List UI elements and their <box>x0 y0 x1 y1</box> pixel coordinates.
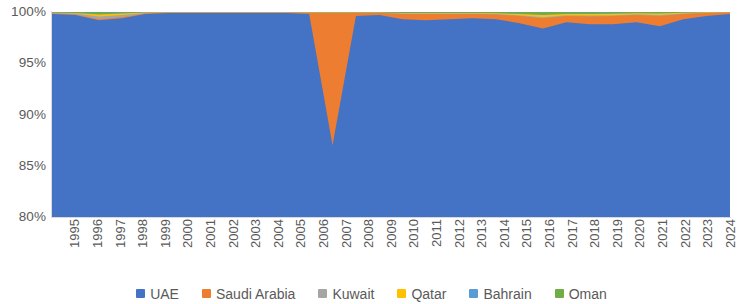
legend-item-kuwait[interactable]: Kuwait <box>318 287 374 301</box>
x-axis-tick-label: 1996 <box>91 219 104 248</box>
x-axis-tick-label: 2010 <box>407 219 420 248</box>
x-axis-tick-label: 2003 <box>249 219 262 248</box>
x-axis-tick-label: 2001 <box>204 219 217 248</box>
legend-swatch-icon <box>555 289 564 298</box>
plot-area <box>52 12 730 217</box>
x-axis-tick-label: 2013 <box>475 219 488 248</box>
y-axis-tick-label: 90% <box>19 108 46 122</box>
x-axis-tick-label: 2021 <box>656 219 669 248</box>
legend-item-uae[interactable]: UAE <box>136 287 179 301</box>
x-axis-tick-label: 2008 <box>362 219 375 248</box>
y-axis-tick-label: 100% <box>11 5 46 19</box>
x-axis-line <box>51 217 731 218</box>
x-axis-tick-label: 2022 <box>679 219 692 248</box>
y-axis-tick-label: 80% <box>19 210 46 224</box>
legend-item-label: Bahrain <box>483 287 531 301</box>
x-axis-tick-label: 2016 <box>543 219 556 248</box>
x-axis-tick-label: 1999 <box>159 219 172 248</box>
legend-swatch-icon <box>318 289 327 298</box>
x-axis-tick-label: 2004 <box>272 219 285 248</box>
legend-swatch-icon <box>136 289 145 298</box>
x-axis-tick-label: 1995 <box>68 219 81 248</box>
legend-item-label: UAE <box>150 287 179 301</box>
x-axis-tick-label: 2006 <box>317 219 330 248</box>
x-axis-tick-label: 2019 <box>611 219 624 248</box>
legend-item-qatar[interactable]: Qatar <box>397 287 446 301</box>
legend-item-saudi-arabia[interactable]: Saudi Arabia <box>202 287 295 301</box>
x-axis-tick-label: 2005 <box>294 219 307 248</box>
x-axis-tick-label: 2014 <box>498 219 511 248</box>
y-axis-tick-label: 85% <box>19 159 46 173</box>
legend-item-label: Saudi Arabia <box>216 287 295 301</box>
stacked-area-chart: 100%95%90%85%80% 19951996199719981999200… <box>0 0 743 304</box>
legend-item-label: Kuwait <box>332 287 374 301</box>
legend-item-label: Oman <box>569 287 607 301</box>
legend-swatch-icon <box>202 289 211 298</box>
legend-swatch-icon <box>397 289 406 298</box>
x-axis-tick-label: 2015 <box>520 219 533 248</box>
x-axis-tick-label: 2017 <box>566 219 579 248</box>
x-axis-tick-label: 2018 <box>588 219 601 248</box>
x-axis-tick-label: 2023 <box>701 219 714 248</box>
x-axis-tick-label: 2024 <box>724 219 737 248</box>
x-axis-tick-label: 1998 <box>136 219 149 248</box>
y-axis-tick-label: 95% <box>19 57 46 71</box>
legend-swatch-icon <box>469 289 478 298</box>
area-series-uae <box>52 13 730 217</box>
x-axis-tick-label: 2000 <box>181 219 194 248</box>
x-axis-tick-label: 2007 <box>340 219 353 248</box>
x-axis-tick-label: 2011 <box>430 219 443 247</box>
legend-item-bahrain[interactable]: Bahrain <box>469 287 531 301</box>
legend-item-oman[interactable]: Oman <box>555 287 607 301</box>
legend-item-label: Qatar <box>411 287 446 301</box>
x-axis-tick-label: 2002 <box>227 219 240 248</box>
x-axis: 1995199619971998199920002001200220032004… <box>52 219 730 277</box>
x-axis-tick-label: 2009 <box>385 219 398 248</box>
area-series-group <box>52 12 730 217</box>
x-axis-tick-label: 2012 <box>453 219 466 248</box>
x-axis-tick-label: 1997 <box>114 219 127 248</box>
x-axis-tick-label: 2020 <box>633 219 646 248</box>
y-axis: 100%95%90%85%80% <box>0 0 52 230</box>
chart-legend: UAESaudi ArabiaKuwaitQatarBahrainOman <box>0 283 743 304</box>
